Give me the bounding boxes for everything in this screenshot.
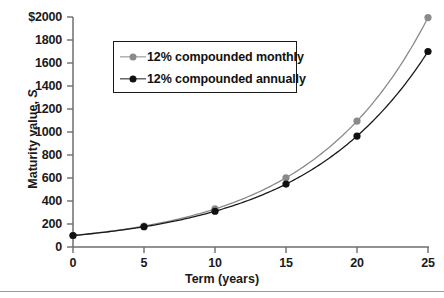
x-axis-label: Term (years) [0, 272, 444, 286]
legend-entry-monthly: 12% compounded monthly [120, 47, 304, 67]
legend-entry-annually: 12% compounded annually [120, 69, 306, 89]
y-axis-label-symbol: S [26, 89, 40, 97]
data-point-marker [211, 208, 218, 215]
data-point-marker [282, 180, 289, 187]
y-tick-label: 0 [0, 240, 62, 254]
legend-label-annually: 12% compounded annually [147, 72, 306, 86]
y-tick-label: 1800 [0, 33, 62, 47]
x-tick-label: 20 [350, 256, 364, 270]
data-point-marker [140, 223, 147, 230]
data-point-marker [282, 174, 289, 181]
y-tick-label: $2000 [0, 10, 62, 24]
y-axis-ticks [67, 17, 73, 247]
data-point-marker [424, 48, 431, 55]
data-point-marker [353, 117, 360, 124]
data-point-marker [353, 132, 360, 139]
data-point-marker [424, 14, 431, 21]
page-divider-rule [0, 291, 444, 292]
legend-label-monthly: 12% compounded monthly [147, 50, 304, 64]
x-axis-ticks [73, 247, 428, 253]
x-tick-label: 0 [70, 256, 77, 270]
y-axis-label: Maturity value, S [26, 59, 40, 219]
y-axis-label-text: Maturity value, [26, 98, 40, 189]
legend-marker-monthly-icon [120, 50, 146, 64]
y-tick-label: 200 [0, 217, 62, 231]
x-tick-label: 10 [208, 256, 222, 270]
data-point-marker [69, 232, 76, 239]
x-tick-label: 5 [141, 256, 148, 270]
chart-legend: 12% compounded monthly 12% compounded an… [113, 41, 297, 93]
x-tick-label: 25 [421, 256, 435, 270]
legend-marker-annually-icon [120, 72, 146, 86]
chart-figure: $2000 1800 1600 1400 1200 1000 800 600 4… [0, 0, 444, 298]
x-tick-label: 15 [279, 256, 293, 270]
